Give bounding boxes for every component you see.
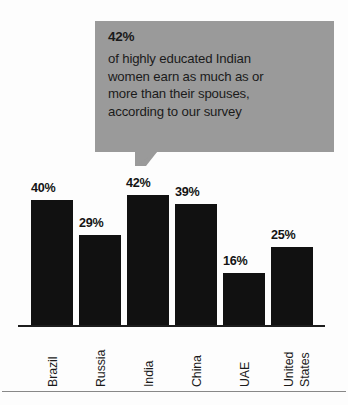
- bar-value-india: 42%: [126, 176, 150, 190]
- x-tick-label-united-states-line1: United: [282, 352, 296, 387]
- x-tick-label-india: India: [142, 361, 156, 387]
- bar-value-united-states: 25%: [271, 228, 295, 242]
- bar-united-states: [271, 247, 313, 325]
- x-axis-line: [18, 325, 325, 327]
- x-tick-label-uae: UAE: [238, 362, 252, 387]
- bar-uae: [223, 273, 265, 325]
- x-tick-label-china: China: [190, 355, 204, 387]
- x-tick-label-brazil: Brazil: [46, 357, 60, 387]
- bar-value-russia: 29%: [79, 216, 103, 230]
- infographic-bar-chart: 42% of highly educated Indian women earn…: [0, 0, 348, 405]
- bar-value-brazil: 40%: [31, 181, 55, 195]
- plot-area: 40% 29% 42% 39% 16% 25% Brazil Russia In…: [0, 0, 348, 405]
- bar-china: [175, 204, 217, 325]
- bar-value-china: 39%: [175, 185, 199, 199]
- x-tick-label-united-states-line2: States: [298, 352, 312, 387]
- bar-india: [127, 195, 169, 325]
- bar-brazil: [31, 200, 73, 325]
- bar-russia: [79, 235, 121, 325]
- bottom-divider: [2, 391, 346, 392]
- bar-value-uae: 16%: [223, 254, 247, 268]
- x-tick-label-russia: Russia: [94, 350, 108, 387]
